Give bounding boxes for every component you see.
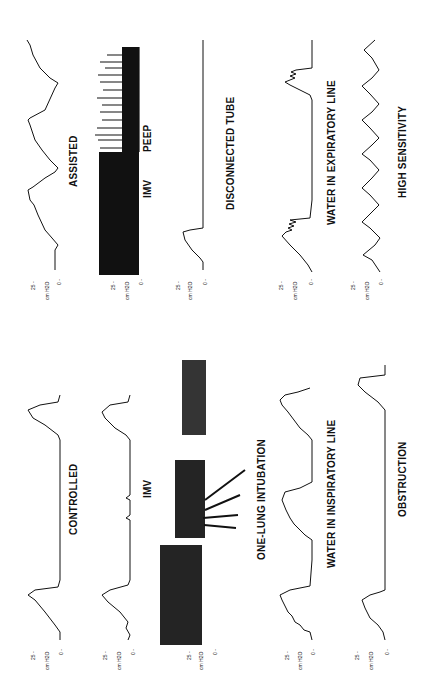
trace-peep-base — [122, 47, 139, 152]
title-imv: IMV — [142, 480, 153, 498]
title-imv-peep-peep: PEEP — [142, 125, 153, 152]
axis-unit: cm H2O — [116, 652, 122, 670]
axis-0: 0 - — [58, 649, 64, 655]
axis-unit: cm H2O — [124, 282, 130, 300]
axis-unit: cm H2O — [292, 282, 298, 300]
axis-25: 25 - — [30, 281, 36, 290]
trace-obstruction — [358, 365, 385, 640]
axis-25: 25 - — [102, 651, 108, 660]
axis-0: 0 - — [130, 649, 136, 655]
axis-unit: cm H2O — [44, 652, 50, 670]
title-one-lung: ONE-LUNG INTUBATION — [256, 439, 267, 560]
axis-25: 25 - — [175, 281, 181, 290]
axis-25: 25 - — [278, 281, 284, 290]
axis-25: 25 - — [186, 651, 192, 660]
axis-unit: cm H2O — [44, 282, 50, 300]
axis-25: 25 - — [30, 651, 36, 660]
axis-0: 0 - — [56, 279, 62, 285]
trace-one-lung-2 — [175, 460, 205, 538]
trace-controlled — [28, 395, 60, 640]
title-high-sensitivity: HIGH SENSITIVITY — [397, 106, 408, 198]
axis-0: 0 - — [308, 279, 314, 285]
axis-unit: cm H2O — [187, 282, 193, 300]
trace-water-exp — [282, 40, 312, 272]
figure-stage: ASSISTED IMV PEEP DISCONNECTED TUBE WATE… — [0, 0, 425, 698]
trace-imv — [102, 395, 130, 640]
axis-unit: cm H2O — [297, 652, 303, 670]
axis-0: 0 - — [378, 279, 384, 285]
trace-assisted — [27, 40, 58, 270]
title-water-inspiratory: WATER IN INSPIRATORY LINE — [326, 420, 337, 568]
axis-unit: cm H2O — [198, 652, 204, 670]
trace-one-lung-3 — [182, 360, 206, 435]
axis-0: 0 - — [212, 649, 218, 655]
axis-25: 25 - — [110, 281, 116, 290]
title-obstruction: OBSTRUCTION — [397, 441, 408, 517]
title-disconnected-tube: DISCONNECTED TUBE — [225, 97, 236, 210]
waveform-traces — [0, 0, 425, 698]
axis-0: 0 - — [384, 649, 390, 655]
trace-high-sens — [362, 40, 380, 272]
axis-0: 0 - — [202, 279, 208, 285]
axis-25: 25 - — [284, 651, 290, 660]
title-assisted: ASSISTED — [68, 135, 79, 187]
trace-one-lung-spikes — [203, 470, 245, 528]
title-imv-peep-imv: IMV — [142, 180, 153, 198]
trace-imv-dense — [99, 152, 139, 275]
axis-0: 0 - — [310, 649, 316, 655]
axis-25: 25 - — [350, 281, 356, 290]
axis-0: 0 - — [138, 279, 144, 285]
title-water-expiratory: WATER IN EXPIRATORY LINE — [326, 80, 337, 225]
axis-unit: cm H2O — [368, 652, 374, 670]
trace-one-lung-1 — [160, 545, 202, 645]
title-controlled: CONTROLLED — [68, 464, 79, 535]
axis-unit: cm H2O — [364, 282, 370, 300]
axis-25: 25 - — [354, 651, 360, 660]
trace-disconnected — [183, 40, 203, 270]
trace-water-insp — [280, 388, 312, 640]
